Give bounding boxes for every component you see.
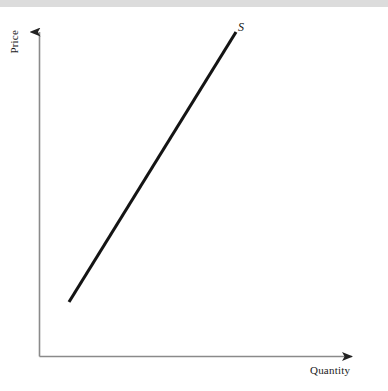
y-axis-label: Price [8, 30, 20, 54]
supply-curve-figure: Price Quantity S [0, 0, 388, 391]
plot-area [0, 0, 388, 391]
x-axis-label: Quantity [310, 364, 350, 376]
supply-curve-label: S [238, 20, 244, 35]
supply-curve-line [69, 32, 236, 302]
